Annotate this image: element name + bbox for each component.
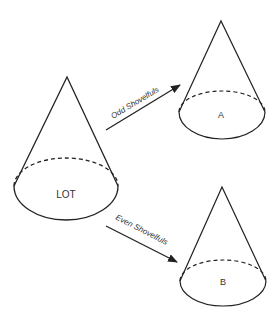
lot-cone: LOT (14, 77, 118, 220)
cone-b-label: B (220, 277, 226, 287)
odd-shovelfuls-arrow: Odd Shovelfuls (106, 85, 180, 130)
even-shovelfuls-arrow: Even Shovelfuls (106, 213, 177, 262)
sampling-diagram: LOT A B Odd Shovelfuls Even Shovelfuls (0, 0, 280, 321)
cone-a-sides (179, 21, 265, 112)
cone-a-label: A (218, 110, 224, 120)
cone-a-base-back (179, 91, 265, 112)
cone-b-sides (180, 187, 266, 281)
odd-shovelfuls-label: Odd Shovelfuls (109, 85, 160, 121)
lot-cone-base-back (14, 158, 118, 186)
even-shovelfuls-label: Even Shovelfuls (114, 213, 169, 247)
lot-cone-sides (14, 77, 118, 186)
cone-b: B (180, 187, 266, 306)
cone-a: A (179, 21, 265, 139)
lot-label: LOT (56, 189, 75, 200)
